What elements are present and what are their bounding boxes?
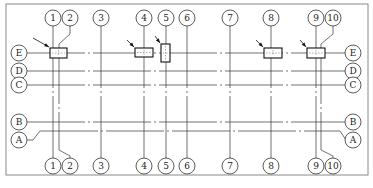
arrow-icon: [300, 40, 306, 47]
column-bubble-bottom-4: 4: [136, 158, 152, 174]
axis-label: 4: [141, 161, 147, 171]
row-axes: EEDDCCBBAA: [11, 45, 361, 148]
axis-label: C: [350, 80, 357, 90]
axis-label: 2: [67, 13, 73, 23]
axis-label: 1: [50, 161, 56, 171]
axis-label: A: [15, 135, 23, 145]
axis-label: 2: [67, 161, 73, 171]
axis-label: 9: [313, 161, 319, 171]
axis-label: 9: [313, 13, 319, 23]
axis-label: 5: [163, 13, 169, 23]
column-bubble-bottom-5: 5: [158, 158, 174, 174]
axis-label: D: [349, 66, 356, 76]
column-axis-3: 33: [93, 10, 109, 174]
column-axis-5: 55: [158, 10, 174, 174]
column-bubble-top-9: 9: [308, 10, 324, 26]
marker-8-box: [256, 40, 282, 58]
arrow-icon: [155, 36, 160, 43]
column-axis-7: 77: [222, 10, 238, 174]
grid-svg: EEDDCCBBAA 1122334455667788991010: [0, 0, 373, 188]
axis-label: 10: [327, 13, 339, 23]
column-bubble-bottom-9: 9: [308, 158, 324, 174]
axis-label: A: [349, 135, 357, 145]
marker-4-box: [127, 40, 153, 57]
column-bubble-bottom-7: 7: [222, 158, 238, 174]
row-bubble-right-B: B: [345, 114, 361, 130]
axis-label: 10: [327, 161, 339, 171]
column-axis-4: 44: [136, 10, 152, 174]
marker-5-box: [155, 36, 170, 62]
axis-label: 4: [141, 13, 147, 23]
column-axis-2: 22: [59, 10, 78, 174]
row-axis-A: AA: [11, 131, 361, 148]
axis-label: E: [350, 48, 357, 58]
column-bubble-top-3: 3: [93, 10, 109, 26]
column-bubble-top-1: 1: [45, 10, 61, 26]
axis-label: 7: [227, 13, 233, 23]
column-bubble-top-10: 10: [325, 10, 341, 26]
axis-label: 3: [98, 161, 104, 171]
arrow-icon: [256, 40, 263, 47]
axis-grid-drawing: EEDDCCBBAA 1122334455667788991010: [0, 0, 373, 188]
row-bubble-right-A: A: [345, 132, 361, 148]
axis-label: D: [15, 66, 22, 76]
column-bubble-bottom-10: 10: [325, 158, 341, 174]
axis-label: 7: [227, 161, 233, 171]
column-bubble-bottom-8: 8: [263, 158, 279, 174]
axis-label: 6: [184, 161, 190, 171]
axis-label: 3: [98, 13, 104, 23]
row-bubble-left-C: C: [11, 77, 27, 93]
row-bubble-right-C: C: [345, 77, 361, 93]
axis-label: B: [16, 117, 23, 127]
arrow-icon: [127, 40, 134, 47]
axis-label: E: [16, 48, 23, 58]
axis-label: B: [350, 117, 357, 127]
column-bubble-bottom-2: 2: [62, 158, 78, 174]
column-axis-1: 11: [45, 10, 61, 174]
column-axis-8: 88: [263, 10, 279, 174]
row-bubble-left-E: E: [11, 45, 27, 61]
axis-label: 1: [50, 13, 56, 23]
arrow-icon: [33, 38, 49, 47]
row-bubble-left-A: A: [11, 132, 27, 148]
row-axis-C: CC: [11, 77, 361, 93]
column-bubble-top-7: 7: [222, 10, 238, 26]
row-bubble-right-D: D: [345, 63, 361, 79]
column-bubble-top-2: 2: [62, 10, 78, 26]
column-axis-6: 66: [179, 10, 195, 174]
column-axis-10: 1010: [321, 10, 341, 174]
row-bubble-right-E: E: [345, 45, 361, 61]
row-axis-D: DD: [11, 63, 361, 79]
column-bubble-top-5: 5: [158, 10, 174, 26]
column-axes: 1122334455667788991010: [45, 10, 341, 174]
axis-label: 8: [268, 13, 274, 23]
row-axis-B: BB: [11, 114, 361, 130]
column-bubble-bottom-1: 1: [45, 158, 61, 174]
axis-label: 6: [184, 13, 190, 23]
row-bubble-left-D: D: [11, 63, 27, 79]
column-bubble-top-6: 6: [179, 10, 195, 26]
column-bubble-top-8: 8: [263, 10, 279, 26]
column-bubble-bottom-6: 6: [179, 158, 195, 174]
column-axis-9: 99: [308, 10, 324, 174]
column-bubble-top-4: 4: [136, 10, 152, 26]
axis-label: 8: [268, 161, 274, 171]
axis-label: 5: [163, 161, 169, 171]
row-bubble-left-B: B: [11, 114, 27, 130]
column-bubble-bottom-3: 3: [93, 158, 109, 174]
marker-9-box: [300, 40, 325, 58]
markers: [33, 36, 325, 62]
axis-label: C: [16, 80, 23, 90]
